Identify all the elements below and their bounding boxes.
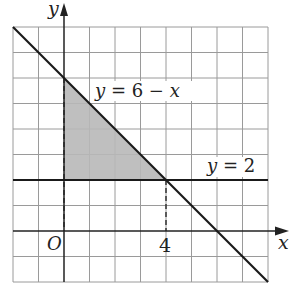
tick-label-4: 4 <box>159 234 171 256</box>
y-axis-arrow-icon <box>60 3 68 16</box>
coordinate-diagram: y x O 4 y = 6 − x y = 2 <box>0 0 289 284</box>
equation-label-line1: y = 6 − x <box>94 80 180 101</box>
x-axis-label: x <box>278 231 289 253</box>
equation-label-line2: y = 2 <box>206 155 255 176</box>
origin-label: O <box>47 233 62 254</box>
y-axis-label: y <box>47 0 59 19</box>
